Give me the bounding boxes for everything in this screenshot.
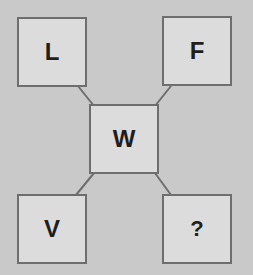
box-bottom-right: ? [162, 194, 232, 264]
letter-top-right: F [190, 37, 205, 65]
letter-top-left: L [45, 38, 60, 66]
connector-top-left [78, 86, 94, 106]
box-top-right: F [162, 16, 232, 86]
question-mark: ? [190, 216, 203, 242]
connector-bottom-right [155, 173, 171, 195]
box-top-left: L [17, 17, 87, 87]
connector-bottom-left [76, 173, 94, 195]
letter-bottom-left: V [44, 215, 60, 243]
box-bottom-left: V [17, 194, 87, 264]
letter-center: W [113, 125, 136, 153]
box-center: W [89, 104, 159, 174]
connector-top-right [155, 86, 171, 106]
